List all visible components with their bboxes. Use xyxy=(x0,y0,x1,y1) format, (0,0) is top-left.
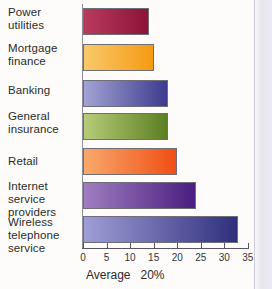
x-axis-tick xyxy=(248,243,249,249)
x-axis-tick-label: 20 xyxy=(172,252,183,263)
average-caption: Average 20% xyxy=(86,268,165,282)
category-label: Internet service providers xyxy=(8,180,80,218)
x-axis-tick xyxy=(177,243,178,249)
x-axis-tick-label: 5 xyxy=(104,252,110,263)
bar[interactable] xyxy=(83,148,177,175)
bar-chart: Power utilitiesMortgage financeBankingGe… xyxy=(0,0,272,289)
x-axis-tick-label: 30 xyxy=(219,252,230,263)
category-label: Mortgage finance xyxy=(8,42,80,68)
x-axis-tick-label: 15 xyxy=(148,252,159,263)
page-edge-line xyxy=(254,0,255,289)
bar[interactable] xyxy=(83,44,154,71)
category-label: Banking xyxy=(8,84,80,97)
category-label: General insurance xyxy=(8,110,80,136)
x-axis-tick xyxy=(83,243,84,249)
x-axis-tick-label: 25 xyxy=(195,252,206,263)
bar[interactable] xyxy=(83,8,149,35)
x-axis-tick xyxy=(107,243,108,249)
category-label: Wireless telephone service xyxy=(8,216,80,254)
x-axis-tick xyxy=(130,243,131,249)
bar[interactable] xyxy=(83,113,168,140)
bar[interactable] xyxy=(83,182,196,209)
plot-area: Power utilitiesMortgage financeBankingGe… xyxy=(0,0,254,289)
bar[interactable] xyxy=(83,216,238,243)
x-axis-tick xyxy=(224,243,225,249)
category-label: Power utilities xyxy=(8,6,80,32)
x-axis-tick-label: 35 xyxy=(242,252,253,263)
bar[interactable] xyxy=(83,80,168,107)
x-axis-tick xyxy=(154,243,155,249)
x-axis-tick xyxy=(201,243,202,249)
x-axis-tick-label: 0 xyxy=(80,252,86,263)
category-label: Retail xyxy=(8,155,80,168)
category-axis-labels: Power utilitiesMortgage financeBankingGe… xyxy=(8,0,80,248)
x-axis-tick-label: 10 xyxy=(125,252,136,263)
page-edge-shadow xyxy=(254,0,272,289)
